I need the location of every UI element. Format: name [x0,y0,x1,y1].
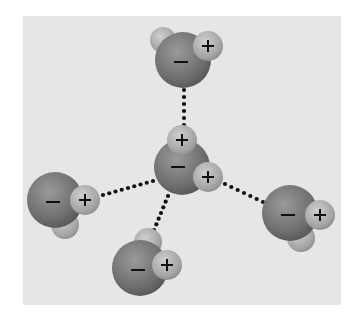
hydrogen-bond-center-right [223,182,265,204]
hydrogen-bond-top-center [182,88,186,127]
water-hydrogen-bond-diagram [0,0,357,319]
hydrogen-bond-center-bottom [152,194,170,232]
water-molecule-bottom [112,228,182,296]
water-molecule-left [27,172,100,239]
water-molecules [27,27,335,296]
water-molecule-top [150,27,223,88]
water-molecule-right [262,185,335,252]
water-molecule-center [154,125,223,195]
hydrogen-bond-left-center [101,179,155,197]
